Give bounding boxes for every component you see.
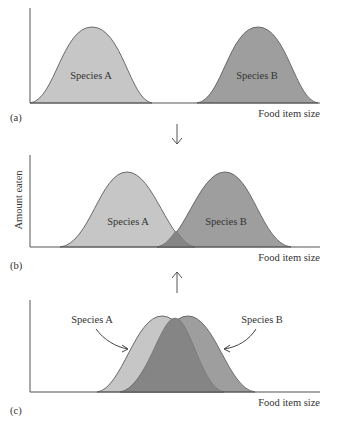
x-axis-label: Food item size [258,252,320,263]
x-axis-label: Food item size [258,397,320,408]
species-a-label: Species A [71,314,113,325]
panel-label: (c) [10,405,22,417]
x-axis-label: Food item size [258,108,320,119]
species-a-curve [30,27,152,103]
species-a-label: Species A [70,70,112,81]
species-b-label: Species B [236,70,278,81]
niche-overlap-diagram: Species A Species B Food item size (a) S… [0,0,342,422]
species-b-curve [197,27,318,103]
panel-a: Species A Species B Food item size (a) [10,8,320,124]
species-a-label: Species A [107,216,149,227]
y-axis-label: Amount eaten [13,170,24,230]
arrow-down-icon [172,124,182,144]
species-b-label: Species B [241,314,283,325]
panel-c: Species A Species B Food item size (c) [10,300,320,417]
species-b-label: Species B [205,216,247,227]
panel-label: (b) [10,260,23,272]
panel-b: Species A Species B Food item size (b) A… [10,155,320,272]
arrow-up-icon [172,272,182,293]
panel-label: (a) [10,112,22,124]
